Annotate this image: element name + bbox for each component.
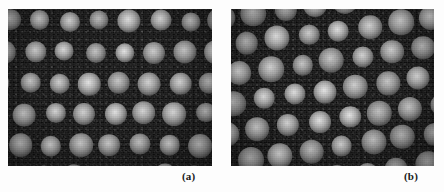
lattice-dot [98,134,120,156]
lattice-dot [385,158,408,167]
lattice-dot [406,66,429,89]
lattice-dot [332,9,358,14]
lattice-dot [25,41,46,62]
lattice-dot [314,81,337,104]
lattice-dot [73,103,95,125]
dot-lattice-a [8,9,212,166]
lattice-dot [390,125,414,149]
lattice-dot [299,139,324,164]
dot-lattice-b [231,9,434,166]
lattice-dot [412,36,434,60]
lattice-dot [46,103,66,123]
lattice-dot [78,73,101,96]
lattice-dot [361,130,386,155]
lattice-dot [90,10,109,29]
lattice-dot [430,94,434,115]
lattice-dot [199,73,212,94]
lattice-dot [231,122,239,146]
lattice-dot [196,103,212,123]
lattice-dot [159,135,180,156]
lattice-dot [258,56,284,82]
lattice-dot [20,72,41,93]
lattice-dot [49,74,69,94]
lattice-dot [154,164,177,166]
lattice-dot [40,136,60,156]
lattice-dot [245,118,269,142]
lattice-dot [115,43,134,62]
lattice-dot [8,41,15,64]
lattice-dot [107,72,130,95]
lattice-dot [254,88,275,109]
lattice-dot [277,114,299,136]
micrograph-panel-b [231,9,434,166]
lattice-dot [275,9,297,21]
lattice-dot [132,101,156,125]
lattice-dot [343,75,367,99]
lattice-dot [231,91,246,116]
lattice-dot [188,135,212,159]
lattice-dot [151,10,172,31]
lattice-dot [267,143,292,166]
lattice-dot [303,9,327,17]
lattice-dot [86,43,106,63]
lattice-dot [235,32,258,55]
lattice-dot [207,9,212,32]
lattice-dot [389,9,415,35]
lattice-dot [319,48,344,73]
lattice-dot [299,25,319,45]
lattice-dot [398,96,422,120]
lattice-dot [380,40,404,64]
lattice-dot [55,41,74,60]
lattice-dot [352,46,373,67]
lattice-dot [69,133,93,157]
lattice-dot [130,133,151,154]
lattice-dot [309,111,331,133]
lattice-dot [238,147,264,166]
lattice-dot [182,12,201,31]
lattice-dot [292,55,312,75]
lattice-dot [424,123,434,145]
lattice-dot [416,151,434,166]
lattice-dot [169,72,192,95]
panel-label-a: (a) [182,170,195,182]
lattice-dot [138,73,161,96]
lattice-dot [174,41,197,64]
lattice-dot [33,165,56,166]
lattice-dot [265,25,290,50]
lattice-dot [328,21,349,42]
lattice-dot [8,73,10,92]
micrograph-panel-a [8,9,212,166]
lattice-dot [162,103,186,127]
figure-root: (a) (b) [0,0,444,192]
panel-label-b: (b) [404,170,418,182]
lattice-dot [240,9,266,27]
lattice-dot [325,165,349,166]
lattice-dot [204,40,212,64]
lattice-dot [231,9,236,30]
lattice-dot [284,84,305,105]
lattice-dot [340,106,361,127]
lattice-dot [143,42,165,64]
lattice-dot [367,101,391,125]
lattice-dot [231,62,251,86]
lattice-dot [377,72,400,95]
lattice-dot [13,104,36,127]
lattice-dot [104,103,126,125]
lattice-dot [60,12,80,32]
lattice-dot [30,10,50,30]
lattice-dot [358,15,381,38]
lattice-dot [118,9,141,32]
lattice-dot [331,136,352,157]
lattice-dot [356,163,380,166]
lattice-dot [8,9,21,30]
lattice-dot [62,164,85,166]
lattice-dot [9,133,33,157]
lattice-dot [419,9,434,30]
